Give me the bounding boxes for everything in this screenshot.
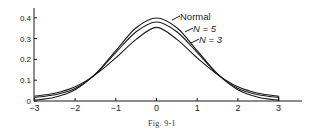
y-tick-label: 0.3 (20, 35, 32, 44)
chart: 00.10.20.30.4 −3−2−10123 Normal N = 5 N … (0, 0, 315, 136)
y-tick-label: 0.2 (20, 55, 32, 64)
x-tick-label: −1 (111, 103, 121, 113)
y-tick-label: 0.1 (20, 76, 32, 85)
x-tick-label: −2 (70, 103, 80, 113)
x-tick-label: 2 (235, 103, 240, 113)
y-tick-label: 0.4 (20, 14, 32, 23)
curve-n-5 (34, 22, 278, 101)
legend-normal: Normal (180, 11, 211, 22)
n5-leader-line (185, 28, 193, 32)
x-tick-label: 1 (195, 103, 200, 113)
legend-n3: N = 3 (199, 34, 223, 45)
x-tick-label: 3 (276, 103, 281, 113)
x-ticks: −3−2−10123 (29, 98, 281, 113)
figure-caption: Fig. 9-1 (148, 119, 176, 128)
normal-leader-line (172, 16, 180, 20)
curves (34, 18, 278, 101)
x-tick-label: 0 (154, 103, 159, 113)
x-tick-label: −3 (29, 103, 39, 113)
n3-leader-line (191, 39, 199, 43)
legend-n5: N = 5 (193, 23, 217, 34)
